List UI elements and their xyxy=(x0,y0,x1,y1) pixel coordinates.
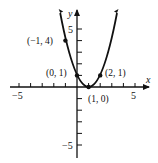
point-1-0 xyxy=(86,85,90,89)
y-tick-label-neg5: −5 xyxy=(62,140,73,151)
point-0-1 xyxy=(75,73,79,77)
parabola-graph: y x 5 −5 −5 5 (−1, 4) (0, 1) (1, 0) (2, … xyxy=(0,0,158,163)
point-neg1-4 xyxy=(63,38,67,42)
curve-arrow-right-icon xyxy=(114,9,119,13)
point-label-neg1-4: (−1, 4) xyxy=(27,36,53,47)
y-axis-label: y xyxy=(67,8,73,19)
x-tick-label-neg5: −5 xyxy=(12,90,23,101)
x-tick-label-5: 5 xyxy=(131,90,136,101)
curve-arrow-left-icon xyxy=(59,9,64,13)
point-label-0-1: (0, 1) xyxy=(46,68,67,79)
point-label-1-0: (1, 0) xyxy=(88,94,109,105)
x-axis-label: x xyxy=(145,74,151,85)
point-label-2-1: (2, 1) xyxy=(105,68,126,79)
y-tick-label-5: 5 xyxy=(68,24,73,35)
point-2-1 xyxy=(98,73,102,77)
